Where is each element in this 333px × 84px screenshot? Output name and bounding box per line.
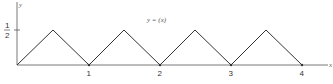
y-tick-label-num: 1 xyxy=(5,21,10,30)
x-tick-label-4: 4 xyxy=(300,69,305,78)
y-axis-label: y xyxy=(18,1,23,9)
y-tick-label-den: 2 xyxy=(5,31,10,40)
chart-canvas: 1 2 1 2 3 4 y = (x) x y xyxy=(0,0,333,84)
x-axis-label: x xyxy=(328,61,333,69)
x-tick-label-1: 1 xyxy=(87,69,92,78)
x-tick-label-2: 2 xyxy=(158,69,163,78)
curve-label: y = (x) xyxy=(146,16,167,24)
x-tick-label-3: 3 xyxy=(229,69,234,78)
triangle-wave-line xyxy=(17,30,302,65)
